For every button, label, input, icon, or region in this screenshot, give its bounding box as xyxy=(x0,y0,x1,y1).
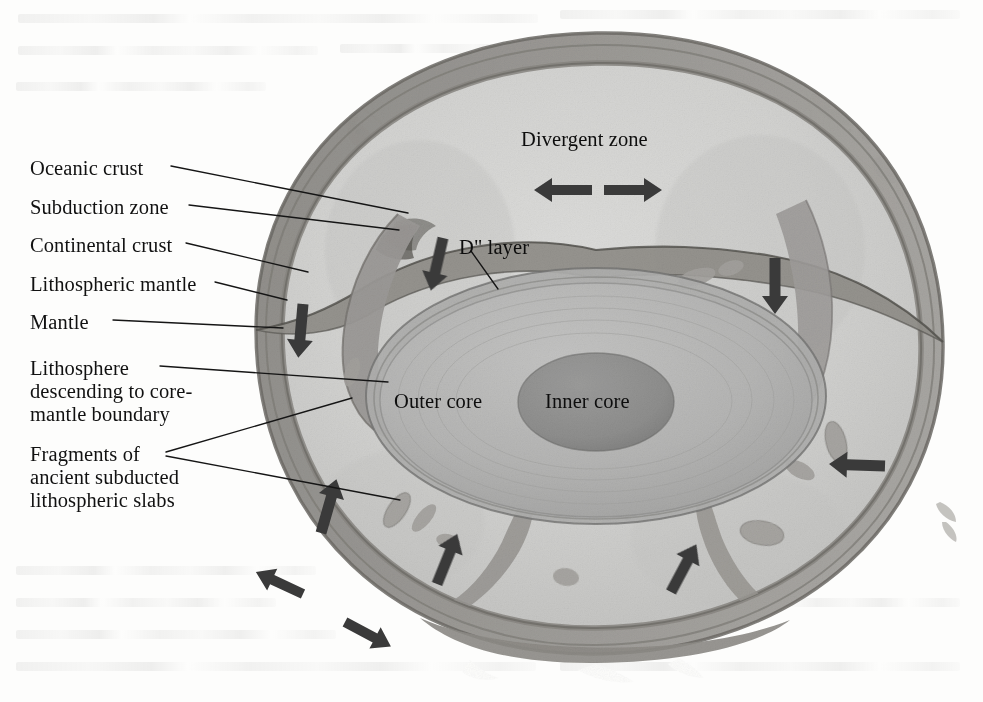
label-divergent-zone: Divergent zone xyxy=(521,128,648,151)
arrow-spread-left-b xyxy=(339,611,396,657)
arrow-spread-left-a xyxy=(251,561,308,605)
label-d-double-prime-layer: D" layer xyxy=(459,236,529,259)
earth-cutaway-diagram xyxy=(0,0,983,702)
label-inner-core: Inner core xyxy=(545,390,630,413)
label-mantle: Mantle xyxy=(30,311,89,334)
label-outer-core: Outer core xyxy=(394,390,482,413)
label-subduction-zone: Subduction zone xyxy=(30,196,169,219)
figure-page: Oceanic crust Subduction zone Continenta… xyxy=(0,0,983,702)
label-lithosphere-descending: Lithosphere descending to core- mantle b… xyxy=(30,357,192,426)
label-oceanic-crust: Oceanic crust xyxy=(30,157,143,180)
label-fragments-of-slabs: Fragments of ancient subducted lithosphe… xyxy=(30,443,179,512)
label-continental-crust: Continental crust xyxy=(30,234,172,257)
label-lithospheric-mantle: Lithospheric mantle xyxy=(30,273,196,296)
